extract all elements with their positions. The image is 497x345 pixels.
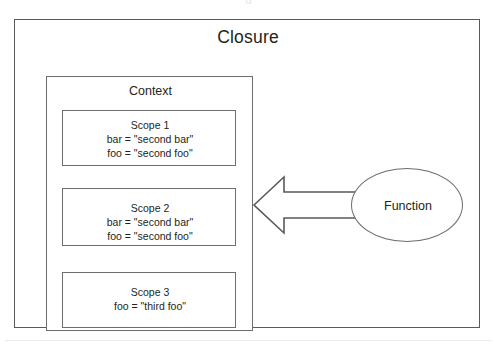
scope-box-3: Scope 3 foo = "third foo" — [62, 272, 236, 328]
function-node: Function — [351, 168, 463, 242]
diagram-canvas: g Closure Context Scope 1 bar = "second … — [0, 0, 497, 345]
function-to-context-arrow-icon — [253, 174, 357, 236]
closure-container: Closure Context Scope 1 bar = "second ba… — [14, 19, 480, 328]
scope-1-line-1: bar = "second bar" — [63, 132, 237, 146]
scope-3-line-1: foo = "third foo" — [63, 299, 237, 313]
scope-2-line-1: bar = "second bar" — [63, 215, 237, 229]
scope-box-1: Scope 1 bar = "second bar" foo = "second… — [62, 110, 236, 166]
scope-2-content: Scope 2 bar = "second bar" foo = "second… — [63, 201, 237, 243]
scope-1-title: Scope 1 — [63, 118, 237, 132]
bottom-separator — [5, 340, 492, 341]
scope-1-content: Scope 1 bar = "second bar" foo = "second… — [63, 118, 237, 160]
closure-title: Closure — [15, 27, 481, 47]
cropped-header-text: g — [0, 0, 497, 4]
scope-box-2: Scope 2 bar = "second bar" foo = "second… — [62, 188, 236, 246]
scope-3-content: Scope 3 foo = "third foo" — [63, 285, 237, 313]
scope-2-line-2: foo = "second foo" — [63, 229, 237, 243]
scope-2-title: Scope 2 — [63, 201, 237, 215]
scope-1-line-2: foo = "second foo" — [63, 146, 237, 160]
scope-3-title: Scope 3 — [63, 285, 237, 299]
context-title: Context — [47, 83, 254, 99]
function-node-label: Function — [352, 169, 464, 243]
